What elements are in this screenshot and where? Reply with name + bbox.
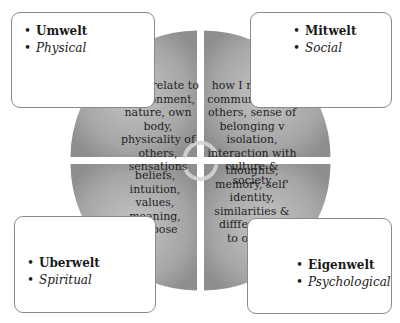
label-box-uberwelt: Uberwelt Spiritual xyxy=(14,216,156,313)
label-subtitle: Psychological xyxy=(296,274,391,291)
label-subtitle: Spiritual xyxy=(27,272,155,289)
label-list: Umwelt Physical xyxy=(24,23,154,57)
label-list: Uberwelt Spiritual xyxy=(27,255,155,289)
label-title: Umwelt xyxy=(24,23,154,40)
label-subtitle: Social xyxy=(293,40,391,57)
label-subtitle: Physical xyxy=(24,40,154,57)
label-box-umwelt: Umwelt Physical xyxy=(11,12,155,108)
label-box-mitwelt: Mitwelt Social xyxy=(250,12,392,108)
label-title: Mitwelt xyxy=(293,23,391,40)
label-list: Mitwelt Social xyxy=(293,23,391,57)
label-title: Eigenwelt xyxy=(296,257,391,274)
label-list: Eigenwelt Psychological xyxy=(296,257,391,291)
label-title: Uberwelt xyxy=(27,255,155,272)
label-box-eigenwelt: Eigenwelt Psychological xyxy=(247,218,392,314)
